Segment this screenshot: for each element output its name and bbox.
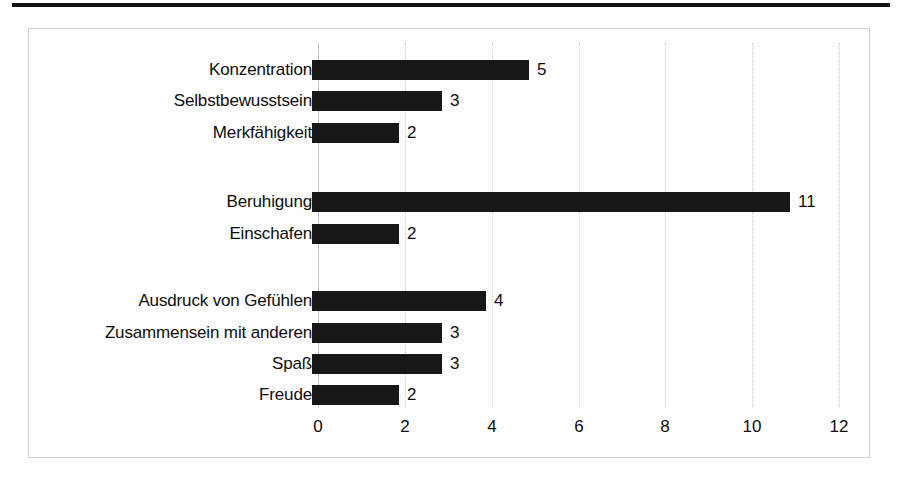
category-label: Freude — [29, 385, 312, 405]
bar-value-label: 2 — [407, 224, 416, 244]
bar-track: 4 — [312, 291, 871, 311]
bar[interactable] — [312, 192, 790, 212]
top-horizontal-rule — [12, 3, 890, 7]
category-label: Zusammensein mit anderen — [29, 323, 312, 343]
x-tick-label: 2 — [400, 415, 409, 439]
category-label: Ausdruck von Gefühlen — [29, 291, 312, 311]
bar[interactable] — [312, 323, 442, 343]
bar-row: Selbstbewusstsein3 — [29, 91, 871, 111]
category-label: Selbstbewusstsein — [29, 91, 312, 111]
bar-value-label: 11 — [798, 192, 816, 212]
bar-track: 3 — [312, 91, 871, 111]
bar-value-label: 2 — [407, 385, 416, 405]
bar[interactable] — [312, 354, 442, 374]
bar-value-label: 2 — [407, 123, 416, 143]
x-tick-label: 6 — [574, 415, 583, 439]
bar-value-label: 4 — [494, 291, 503, 311]
bar-row: Konzentration5 — [29, 60, 871, 80]
bar-track: 2 — [312, 123, 871, 143]
chart-frame: Konzentration5Selbstbewusstsein3Merkfähi… — [28, 28, 870, 458]
bar[interactable] — [312, 224, 399, 244]
category-label: Einschafen — [29, 224, 312, 244]
bar[interactable] — [312, 291, 486, 311]
bar-rows-container: Konzentration5Selbstbewusstsein3Merkfähi… — [29, 43, 871, 407]
x-tick-label: 8 — [660, 415, 669, 439]
bar-value-label: 5 — [537, 60, 546, 80]
x-tick-label: 0 — [313, 415, 322, 439]
bar-row: Ausdruck von Gefühlen4 — [29, 291, 871, 311]
bar[interactable] — [312, 385, 399, 405]
bar[interactable] — [312, 123, 399, 143]
x-tick-label: 12 — [830, 415, 849, 439]
bar-row: Zusammensein mit anderen3 — [29, 323, 871, 343]
bar-row: Beruhigung11 — [29, 192, 871, 212]
bar-row: Einschafen2 — [29, 224, 871, 244]
bar-track: 5 — [312, 60, 871, 80]
bar-track: 2 — [312, 224, 871, 244]
bar-track: 2 — [312, 385, 871, 405]
category-label: Beruhigung — [29, 192, 312, 212]
category-label: Merkfähigkeit — [29, 123, 312, 143]
category-label: Konzentration — [29, 60, 312, 80]
bar-row: Merkfähigkeit2 — [29, 123, 871, 143]
bar-value-label: 3 — [450, 323, 459, 343]
x-tick-label: 4 — [487, 415, 496, 439]
bar-track: 3 — [312, 323, 871, 343]
bar[interactable] — [312, 60, 529, 80]
bar-value-label: 3 — [450, 91, 459, 111]
category-label: Spaß — [29, 354, 312, 374]
bar-track: 11 — [312, 192, 871, 212]
bar[interactable] — [312, 91, 442, 111]
bar-track: 3 — [312, 354, 871, 374]
x-tick-label: 10 — [743, 415, 762, 439]
bar-value-label: 3 — [450, 354, 459, 374]
bar-row: Spaß3 — [29, 354, 871, 374]
x-axis-tick-labels: 024681012 — [318, 415, 839, 443]
bar-row: Freude2 — [29, 385, 871, 405]
